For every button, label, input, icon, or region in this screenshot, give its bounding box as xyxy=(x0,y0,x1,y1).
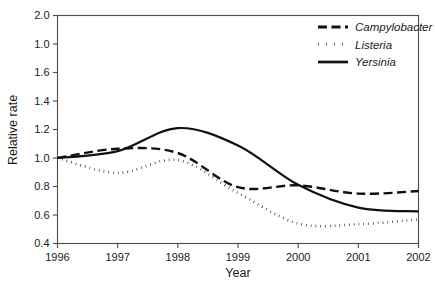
legend-label-campylobacter: Campylobacter xyxy=(355,21,434,33)
y-tick-label: 1.4 xyxy=(34,95,49,107)
relative-rate-line-chart: 0.40.60.81.01.21.41.61.02.0 199619971998… xyxy=(0,0,435,290)
chart-figure: 0.40.60.81.01.21.41.61.02.0 199619971998… xyxy=(0,0,435,290)
y-tick-label: 1.2 xyxy=(34,123,49,135)
x-tick-label: 2000 xyxy=(286,251,310,263)
x-tick-label: 1999 xyxy=(226,251,250,263)
legend-label-listeria: Listeria xyxy=(355,39,392,51)
y-tick-label: 1.0 xyxy=(34,38,49,50)
x-tick-label: 1996 xyxy=(45,251,69,263)
y-axis-title: Relative rate xyxy=(6,95,20,165)
y-tick-label: 1.0 xyxy=(34,152,49,164)
y-tick-label: 0.6 xyxy=(34,209,49,221)
legend-label-yersinia: Yersinia xyxy=(355,56,396,68)
y-tick-label: 0.4 xyxy=(34,237,49,249)
x-tick-label: 1998 xyxy=(166,251,190,263)
x-tick-label: 1997 xyxy=(105,251,129,263)
y-tick-label: 0.8 xyxy=(34,180,49,192)
x-tick-label: 2001 xyxy=(346,251,370,263)
x-axis-title: Year xyxy=(225,266,250,280)
x-tick-label: 2002 xyxy=(406,251,430,263)
y-tick-label: 1.6 xyxy=(34,66,49,78)
y-tick-label: 2.0 xyxy=(34,9,49,21)
